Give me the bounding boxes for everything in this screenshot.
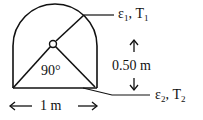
leader-line-2 [83,88,150,95]
width-label: 1 m [40,99,61,113]
height-label: 0.50 m [112,59,151,73]
radial-line [56,15,84,41]
triangle-right-side [55,46,95,87]
surface2-label: ε2, T2 [155,88,185,106]
angle-label: 90° [41,64,61,78]
surface1-label: ε1, T1 [118,7,148,25]
surface1-emissivity-sub: 1 [124,13,129,23]
surface2-emissivity-sub: 2 [161,94,166,104]
surface1-temp-sub: 1 [144,13,149,23]
pivot-circle [50,41,57,48]
surface1-temp-symbol: T [135,6,144,21]
surface2-temp-sub: 2 [181,94,186,104]
surface2-temp-symbol: T [172,87,181,102]
